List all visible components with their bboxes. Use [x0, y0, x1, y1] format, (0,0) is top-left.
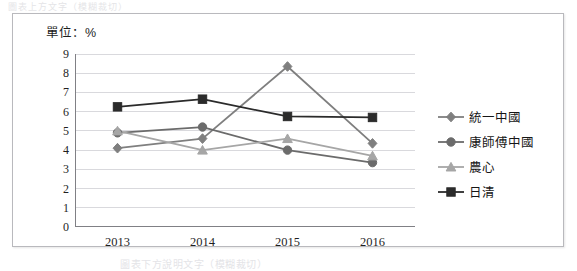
y-axis-tick-label: 8: [63, 67, 69, 79]
chart-legend: 統一中國康師傅中國農心日清: [437, 104, 557, 204]
caption-bottom-artifact: 圖表下方說明文字（模糊裁切）: [120, 256, 520, 270]
plot-area: 01234567892013201420152016: [75, 54, 415, 227]
legend-item-3[interactable]: 農心: [437, 154, 557, 179]
legend-item-2[interactable]: 康師傅中國: [437, 129, 557, 154]
y-axis-tick-label: 0: [63, 221, 69, 233]
y-axis-tick-label: 7: [63, 86, 69, 98]
x-axis-tick-label: 2016: [360, 236, 385, 249]
y-axis-tick-label: 1: [63, 202, 69, 214]
x-axis-tick-label: 2014: [190, 236, 215, 249]
x-axis-tick-label: 2015: [275, 236, 300, 249]
y-axis-tick-label: 5: [63, 125, 69, 137]
caption-top-artifact: 圖表上方文字（模糊裁切）: [8, 0, 308, 12]
x-axis-tick-label: 2013: [105, 236, 130, 249]
legend-item-1[interactable]: 統一中國: [437, 104, 557, 129]
diamond-marker-icon: [437, 110, 465, 124]
circle-marker-icon: [437, 135, 465, 149]
legend-item-label: 康師傅中國: [469, 132, 534, 151]
square-marker-icon: [437, 185, 465, 199]
chart-figure-frame: 單位：% 01234567892013201420152016 統一中國康師傅中…: [12, 13, 564, 247]
legend-item-label: 統一中國: [469, 107, 521, 126]
y-axis-tick-label: 4: [63, 144, 69, 156]
unit-label: 單位：%: [46, 22, 96, 41]
y-axis-tick-label: 2: [63, 183, 69, 195]
y-axis-tick-label: 3: [63, 163, 69, 175]
chart-canvas: [75, 54, 415, 227]
y-axis-tick-label: 9: [63, 48, 69, 60]
legend-item-label: 農心: [469, 157, 495, 176]
y-axis-tick-label: 6: [63, 106, 69, 118]
legend-item-label: 日清: [469, 182, 495, 201]
legend-item-4[interactable]: 日清: [437, 179, 557, 204]
triangle-marker-icon: [437, 160, 465, 174]
